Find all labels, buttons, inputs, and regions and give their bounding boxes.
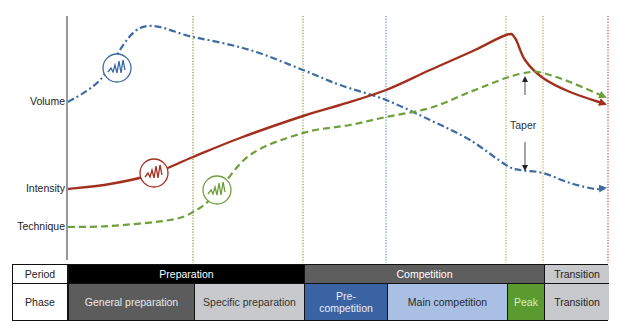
volume-wave-icon (103, 54, 131, 82)
y-label-volume: Volume (30, 95, 65, 107)
phase-main-competition: Main competition (387, 284, 507, 320)
period-preparation: Preparation (68, 265, 304, 284)
taper-annotation-label: Taper (510, 118, 536, 132)
technique-curve (68, 72, 605, 227)
phase-peak: Peak (507, 284, 544, 320)
period-competition: Competition (304, 265, 544, 284)
period-transition: Transition (544, 265, 609, 284)
phase-general-preparation: General preparation (68, 284, 194, 320)
y-label-technique: Technique (17, 220, 65, 232)
row-label-phase: Phase (13, 284, 68, 320)
phase-specific-preparation: Specific preparation (194, 284, 304, 320)
periodization-table: PeriodPreparationCompetitionTransitionPh… (12, 264, 608, 321)
technique-wave-icon (203, 176, 231, 204)
phase-pre-competition: Pre-competition (304, 284, 387, 320)
y-label-intensity: Intensity (26, 182, 65, 194)
intensity-wave-icon (140, 159, 168, 187)
row-label-period: Period (13, 265, 68, 284)
phase-transition: Transition (544, 284, 609, 320)
